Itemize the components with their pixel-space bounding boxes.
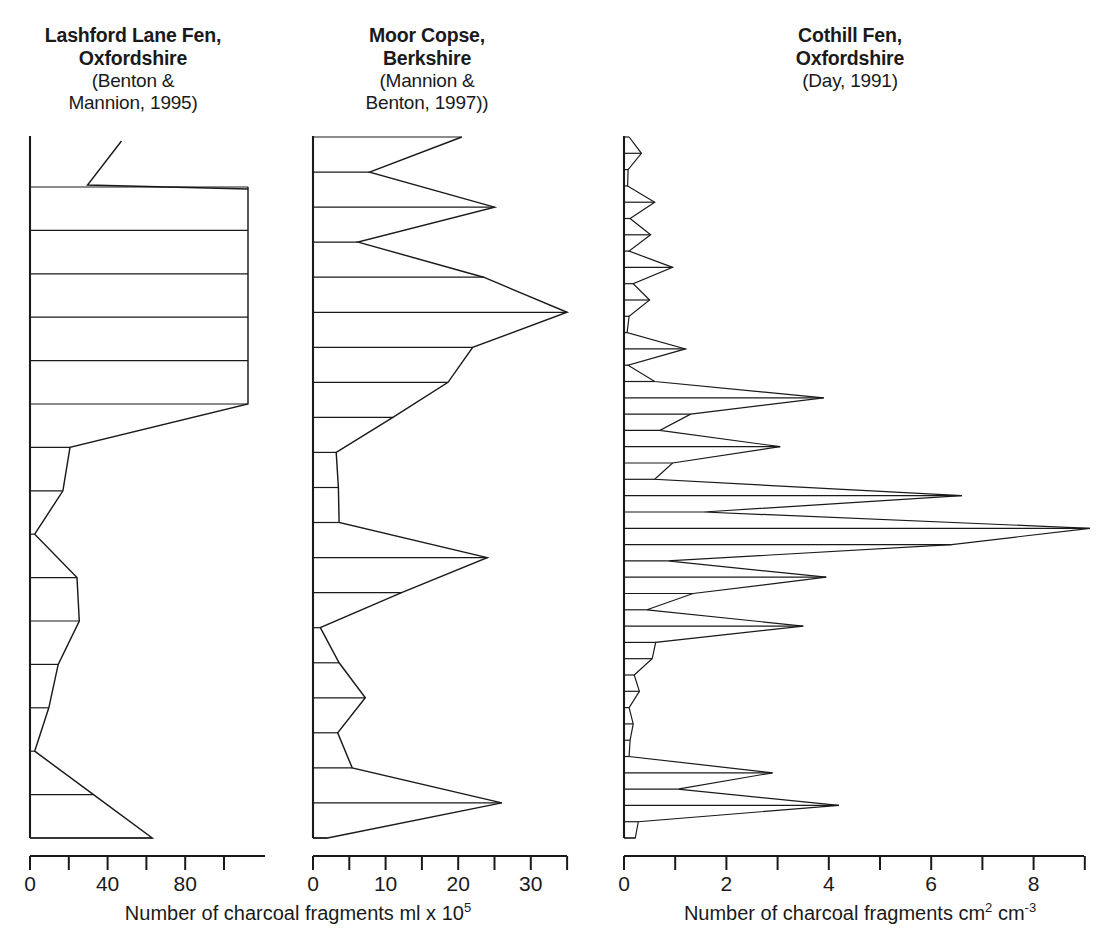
panel1-x-tick-label: 40 [78, 872, 138, 896]
right-caption-text-b: cm [992, 902, 1024, 924]
panel3-x-tick-label: 4 [799, 872, 859, 896]
left-caption-text: Number of charcoal fragments ml x 10 [125, 902, 464, 924]
charcoal-curves-svg [0, 0, 1116, 951]
panel1-x-axis [30, 856, 265, 870]
right-axis-caption: Number of charcoal fragments cm2 cm-3 [630, 900, 1090, 925]
panel2-x-axis [313, 856, 567, 870]
left-axis-caption: Number of charcoal fragments ml x 105 [78, 900, 518, 925]
panel3-curve-group [624, 137, 1090, 838]
panel3-x-axis [624, 856, 1085, 870]
left-caption-exponent: 5 [464, 900, 471, 915]
panel3-x-tick-label: 8 [1004, 872, 1064, 896]
panel2-x-tick-label: 10 [356, 872, 416, 896]
right-caption-text-a: Number of charcoal fragments cm [684, 902, 985, 924]
panel3-x-tick-label: 6 [901, 872, 961, 896]
panel2-curve-group [313, 137, 567, 838]
panel1-offscale-segment [88, 141, 249, 189]
panel2-x-tick-label: 20 [428, 872, 488, 896]
panel1-x-tick-label: 80 [155, 872, 215, 896]
panel1-curve-group [30, 141, 248, 838]
panel3-x-tick-label: 0 [594, 872, 654, 896]
panel3-charcoal-curve [624, 137, 1090, 838]
panel2-x-tick-label: 30 [501, 872, 561, 896]
panel1-x-tick-label: 0 [0, 872, 60, 896]
panel2-x-tick-label: 0 [283, 872, 343, 896]
panel3-x-tick-label: 2 [696, 872, 756, 896]
right-caption-exponent-b: -3 [1025, 900, 1037, 915]
panel1-charcoal-curve [30, 187, 248, 838]
figure-canvas: Lashford Lane Fen, Oxfordshire (Benton &… [0, 0, 1116, 951]
